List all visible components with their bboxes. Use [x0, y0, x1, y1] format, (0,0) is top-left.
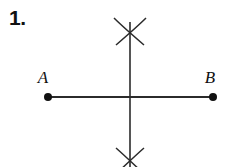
top-arc-left: [114, 18, 144, 45]
perpendicular-bisector-construction: A B: [0, 0, 229, 167]
top-arc-right: [116, 18, 146, 45]
endpoint-b-dot: [209, 93, 217, 101]
endpoint-a-dot: [44, 93, 52, 101]
point-a-label: A: [37, 68, 49, 87]
geometry-figure: 1. A B: [0, 0, 229, 167]
point-b-label: B: [205, 68, 216, 87]
